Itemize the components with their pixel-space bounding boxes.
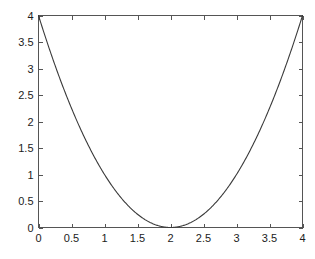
y-tick-label: 1: [27, 169, 33, 181]
y-tick-label: 0: [27, 222, 33, 234]
x-tick-label: 4: [299, 232, 305, 244]
figure-canvas: 00.511.522.533.54 00.511.522.533.54: [0, 0, 315, 259]
y-tick-label: 0.5: [18, 195, 33, 207]
y-tick-label: 3: [27, 63, 33, 75]
x-axis-tick-labels: 00.511.522.533.54: [35, 232, 305, 244]
figure-background: [0, 0, 315, 259]
y-tick-label: 1.5: [18, 142, 33, 154]
y-tick-label: 4: [27, 10, 33, 22]
x-tick-label: 0: [35, 232, 41, 244]
y-tick-label: 2: [27, 116, 33, 128]
x-tick-label: 2: [167, 232, 173, 244]
x-tick-label: 3.5: [262, 232, 277, 244]
x-tick-label: 1: [101, 232, 107, 244]
plot-svg: 00.511.522.533.54 00.511.522.533.54: [0, 0, 315, 259]
y-tick-label: 3.5: [18, 36, 33, 48]
x-tick-label: 0.5: [64, 232, 79, 244]
x-tick-label: 3: [233, 232, 239, 244]
y-tick-label: 2.5: [18, 89, 33, 101]
x-tick-label: 1.5: [130, 232, 145, 244]
x-tick-label: 2.5: [196, 232, 211, 244]
